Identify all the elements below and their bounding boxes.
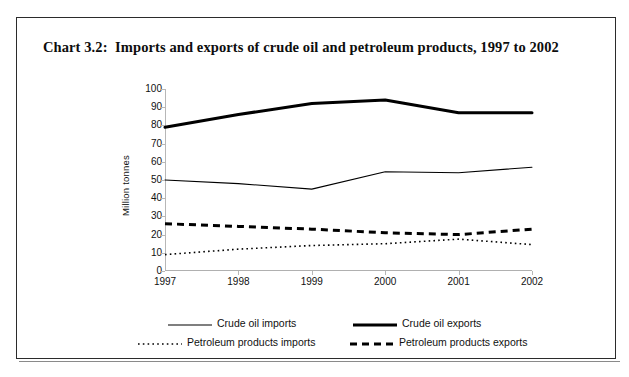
plot-canvas xyxy=(165,89,532,271)
legend-line-sample xyxy=(352,317,398,329)
chart-legend: Crude oil importsCrude oil exports Petro… xyxy=(137,314,547,354)
legend-label: Petroleum products exports xyxy=(399,336,527,348)
y-tick-mark xyxy=(161,216,165,217)
y-tick-mark xyxy=(161,162,165,163)
legend-label: Crude oil exports xyxy=(402,317,481,329)
legend-label: Petroleum products imports xyxy=(187,336,315,348)
y-axis-tick-labels: 0102030405060708090100 xyxy=(136,86,162,274)
y-axis-title: Million tonnes xyxy=(120,138,134,234)
legend-row: Crude oil importsCrude oil exports xyxy=(137,314,547,332)
legend-line-sample xyxy=(137,336,183,348)
legend-entry: Petroleum products exports xyxy=(349,333,527,351)
chart-page: Chart 3.2: Imports and exports of crude … xyxy=(0,0,629,377)
y-tick-mark xyxy=(161,107,165,108)
x-tick-label: 2000 xyxy=(374,276,396,287)
legend-entry: Petroleum products imports xyxy=(137,333,315,351)
x-tick-mark xyxy=(238,271,239,275)
legend-line-sample xyxy=(349,336,395,348)
legend-row: Petroleum products importsPetroleum prod… xyxy=(137,333,547,351)
series-line xyxy=(165,167,532,189)
legend-entry: Crude oil exports xyxy=(352,314,481,332)
x-tick-label: 1999 xyxy=(301,276,323,287)
x-tick-mark xyxy=(532,271,533,275)
y-tick-mark xyxy=(161,125,165,126)
x-axis-tick-labels: 199719981999200020012002 xyxy=(165,276,532,290)
legend-line-sample xyxy=(167,317,213,329)
y-tick-mark xyxy=(161,253,165,254)
series-line xyxy=(165,239,532,254)
series-line xyxy=(165,224,532,235)
y-tick-mark xyxy=(161,198,165,199)
series-layer xyxy=(165,89,532,271)
series-line xyxy=(165,100,532,127)
x-tick-label: 2001 xyxy=(447,276,469,287)
chart-plot-area: Million tonnes 0102030405060708090100 19… xyxy=(122,86,542,286)
chart-title: Chart 3.2: Imports and exports of crude … xyxy=(43,39,559,56)
x-tick-mark xyxy=(459,271,460,275)
x-tick-mark xyxy=(385,271,386,275)
x-tick-label: 2002 xyxy=(521,276,543,287)
document-border: Chart 3.2: Imports and exports of crude … xyxy=(16,17,616,359)
y-tick-mark xyxy=(161,144,165,145)
y-tick-mark xyxy=(161,235,165,236)
x-tick-label: 1997 xyxy=(154,276,176,287)
y-tick-mark xyxy=(161,89,165,90)
legend-label: Crude oil imports xyxy=(217,317,296,329)
y-tick-mark xyxy=(161,271,165,272)
legend-entry: Crude oil imports xyxy=(167,314,296,332)
x-tick-mark xyxy=(312,271,313,275)
y-tick-label: 100 xyxy=(145,84,162,94)
y-tick-mark xyxy=(161,180,165,181)
x-tick-label: 1998 xyxy=(227,276,249,287)
